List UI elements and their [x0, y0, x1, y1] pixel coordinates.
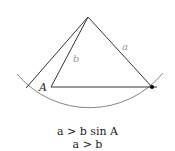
label-A: A	[38, 81, 47, 94]
condition-2: a > b	[0, 138, 175, 151]
side-a	[88, 17, 152, 87]
condition-1: a > b sin A	[0, 125, 175, 138]
vertex-dot	[150, 85, 154, 89]
label-b: b	[73, 53, 79, 64]
label-a: a	[122, 41, 128, 52]
side-b	[51, 17, 88, 87]
